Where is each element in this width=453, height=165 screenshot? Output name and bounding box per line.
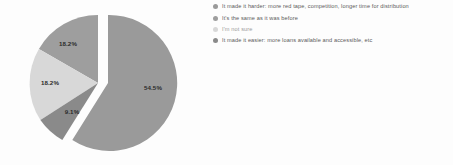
legend-item-label: It made it harder: more red tape, compet… xyxy=(222,3,409,10)
slice-value-label-harder: 54.5% xyxy=(144,84,162,91)
legend-marker-icon xyxy=(213,4,218,9)
legend-item-made-it-easier[interactable]: It made it easier: more loans available … xyxy=(211,35,453,46)
pie-chart-plot-area: 54.5% 18.2% 18.2% 9.1% xyxy=(0,0,210,165)
legend-item-label: I'm not sure xyxy=(222,26,253,33)
slice-value-label-same: 18.2% xyxy=(59,40,77,47)
legend-marker-icon xyxy=(213,27,218,32)
legend-item-same-as-before[interactable]: It's the same as it was before xyxy=(211,12,453,23)
legend-item-made-it-harder[interactable]: It made it harder: more red tape, compet… xyxy=(211,1,453,12)
legend-item-label: It made it easier: more loans available … xyxy=(222,37,372,44)
legend-item-not-sure[interactable]: I'm not sure xyxy=(211,24,453,35)
legend-item-label: It's the same as it was before xyxy=(222,15,298,22)
slice-value-label-not-sure: 18.2% xyxy=(41,79,59,86)
pie-chart-svg: 54.5% 18.2% 18.2% 9.1% xyxy=(0,0,210,165)
legend-marker-icon xyxy=(213,16,218,21)
slice-value-label-easier: 9.1% xyxy=(65,108,80,115)
legend-marker-icon xyxy=(213,38,218,43)
pie-chart-figure: 54.5% 18.2% 18.2% 9.1% It made it harder… xyxy=(0,0,453,165)
chart-legend: It made it harder: more red tape, compet… xyxy=(211,0,453,57)
